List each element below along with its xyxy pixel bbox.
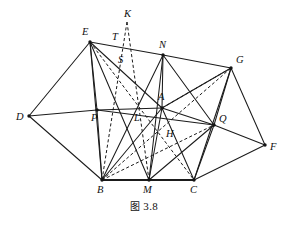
caption-number: 3.8 <box>143 200 158 212</box>
vertex-dot-B <box>100 178 103 181</box>
vertex-dot-A <box>160 106 163 109</box>
edge-P-A <box>97 108 162 110</box>
vertex-dot-Q <box>212 123 215 126</box>
edge-D-E <box>29 42 90 116</box>
vertex-dot-D <box>27 114 30 117</box>
caption-cjk-text: 图 <box>130 201 140 212</box>
solid-edge-layer <box>29 42 265 180</box>
point-label-A: A <box>157 91 165 102</box>
point-label-K: K <box>123 8 132 19</box>
vertex-dot-M <box>147 178 150 181</box>
point-label-H: H <box>165 128 175 139</box>
vertex-dot-E <box>88 40 91 43</box>
vertex-label-layer: KETNSGADPLQHFBMC <box>15 8 277 195</box>
vertex-dot-C <box>192 178 195 181</box>
edge-D-P <box>29 110 97 116</box>
point-label-L: L <box>133 112 140 123</box>
point-label-G: G <box>236 54 244 65</box>
edge-N-G <box>163 55 231 68</box>
edge-E-A <box>90 42 162 108</box>
vertex-dot-N <box>161 53 164 56</box>
point-label-D: D <box>15 111 24 122</box>
vertex-dot-layer <box>27 40 266 181</box>
edge-K-B <box>102 22 127 180</box>
point-label-Q: Q <box>219 113 227 124</box>
figure-caption: 图 3.8 <box>0 198 288 213</box>
geometry-diagram: KETNSGADPLQHFBMC <box>0 0 288 226</box>
point-label-B: B <box>97 184 104 195</box>
edge-A-Q <box>162 108 214 125</box>
point-label-N: N <box>158 39 167 50</box>
point-label-P: P <box>90 112 98 123</box>
vertex-dot-G <box>229 66 232 69</box>
point-label-C: C <box>190 184 198 195</box>
vertex-dot-F <box>263 143 266 146</box>
point-label-F: F <box>269 141 277 152</box>
point-label-T: T <box>112 31 119 42</box>
edge-D-B <box>29 116 102 180</box>
point-label-E: E <box>81 26 89 37</box>
point-label-M: M <box>142 184 153 195</box>
edge-G-C <box>194 68 231 180</box>
geometry-figure: KETNSGADPLQHFBMC 图 3.8 <box>0 0 288 226</box>
edge-E-N <box>90 42 163 55</box>
edge-K-S-M <box>127 22 149 180</box>
point-label-S: S <box>118 54 124 65</box>
